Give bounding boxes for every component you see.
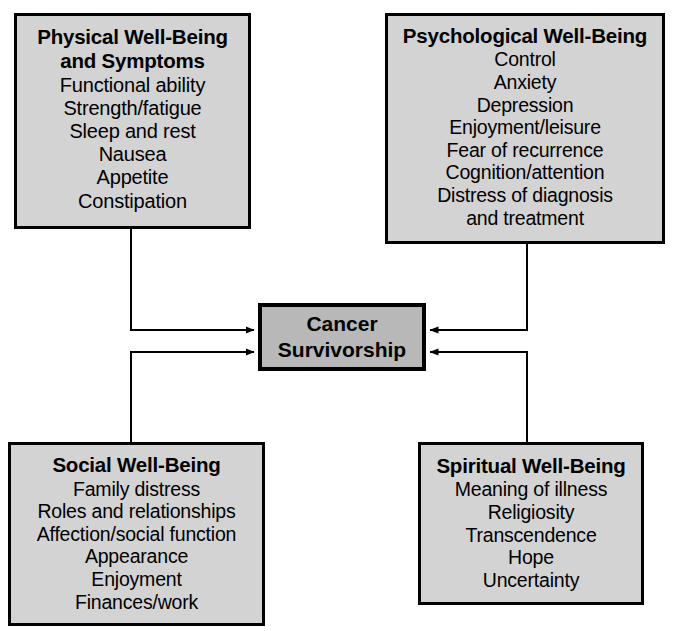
node-physical-title-line2: and Symptoms — [60, 49, 205, 73]
node-psychological-item-0: Control — [494, 48, 555, 71]
center-label-line2: Survivorship — [278, 337, 406, 363]
node-social-item-0: Family distress — [73, 478, 200, 501]
connector-psychological-to-center — [430, 244, 527, 330]
node-spiritual-item-2: Transcendence — [465, 524, 596, 547]
node-social-well-being: Social Well-Being Family distress Roles … — [8, 442, 265, 626]
node-physical-item-4: Appetite — [97, 166, 169, 189]
node-psychological-item-1: Anxiety — [494, 71, 557, 94]
node-social-item-4: Enjoyment — [91, 568, 181, 591]
connector-social-to-center — [131, 352, 254, 442]
node-spiritual-item-3: Hope — [508, 546, 554, 569]
node-physical-item-2: Sleep and rest — [69, 120, 195, 143]
node-physical-item-5: Constipation — [78, 190, 187, 213]
node-psychological-item-5: Cognition/attention — [446, 161, 605, 184]
node-psychological-item-7: and treatment — [466, 207, 584, 230]
node-spiritual-item-0: Meaning of illness — [455, 478, 608, 501]
node-spiritual-well-being: Spiritual Well-Being Meaning of illness … — [418, 442, 644, 605]
node-psychological-item-6: Distress of diagnosis — [437, 184, 613, 207]
node-social-item-3: Appearance — [85, 545, 188, 568]
node-social-item-5: Finances/work — [75, 591, 198, 614]
node-physical-item-0: Functional ability — [60, 74, 205, 97]
node-cancer-survivorship: Cancer Survivorship — [258, 303, 426, 371]
center-label-line1: Cancer — [306, 311, 377, 337]
node-spiritual-item-4: Uncertainty — [483, 569, 579, 592]
connector-spiritual-to-center — [430, 352, 527, 442]
node-social-item-1: Roles and relationships — [37, 500, 235, 523]
connector-physical-to-center — [131, 229, 254, 330]
node-spiritual-title: Spiritual Well-Being — [436, 454, 625, 478]
node-spiritual-item-1: Religiosity — [488, 501, 575, 524]
node-physical-item-3: Nausea — [99, 143, 167, 166]
node-psychological-title: Psychological Well-Being — [403, 24, 647, 48]
node-social-item-2: Affection/social function — [37, 523, 237, 546]
node-psychological-item-3: Enjoyment/leisure — [449, 116, 601, 139]
node-psychological-well-being: Psychological Well-Being Control Anxiety… — [385, 13, 665, 244]
node-psychological-item-2: Depression — [477, 94, 574, 117]
node-social-title: Social Well-Being — [52, 453, 220, 477]
node-physical-title-line1: Physical Well-Being — [37, 25, 228, 49]
node-psychological-item-4: Fear of recurrence — [447, 139, 604, 162]
cancer-survivorship-diagram: Physical Well-Being and Symptoms Functio… — [0, 0, 673, 631]
node-physical-well-being: Physical Well-Being and Symptoms Functio… — [14, 13, 251, 229]
node-physical-item-1: Strength/fatigue — [63, 97, 201, 120]
